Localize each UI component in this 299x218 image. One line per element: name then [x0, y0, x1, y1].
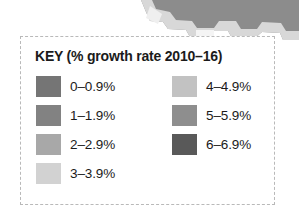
legend-item-label: 5–5.9%: [206, 108, 251, 123]
legend-swatch: [172, 76, 197, 97]
map-legend-figure: KEY (% growth rate 2010–16) 0–0.9% 1–1.9…: [0, 0, 299, 218]
legend-item[interactable]: 1–1.9%: [36, 104, 115, 126]
legend-item[interactable]: 0–0.9%: [36, 75, 115, 97]
coastline-shape: [141, 0, 299, 40]
legend-item-label: 1–1.9%: [70, 108, 115, 123]
legend-swatch: [36, 105, 61, 126]
legend-item[interactable]: 4–4.9%: [172, 75, 251, 97]
legend-box: KEY (% growth rate 2010–16) 0–0.9% 1–1.9…: [20, 36, 275, 205]
legend-swatch: [36, 134, 61, 155]
legend-item[interactable]: 5–5.9%: [172, 104, 251, 126]
legend-swatch: [172, 134, 197, 155]
inlet-shape: [146, 6, 162, 24]
legend-column-left: 0–0.9% 1–1.9% 2–2.9% 3–3.9%: [36, 75, 115, 191]
legend-item[interactable]: 3–3.9%: [36, 162, 115, 184]
legend-item-label: 4–4.9%: [206, 79, 251, 94]
legend-item-label: 6–6.9%: [206, 137, 251, 152]
landmass-shape: [141, 0, 299, 40]
legend-swatch: [36, 163, 61, 184]
legend-item-label: 0–0.9%: [70, 79, 115, 94]
legend-column-right: 4–4.9% 5–5.9% 6–6.9%: [172, 75, 251, 162]
legend-item-label: 3–3.9%: [70, 166, 115, 181]
legend-item[interactable]: 2–2.9%: [36, 133, 115, 155]
legend-swatch: [36, 76, 61, 97]
legend-item-label: 2–2.9%: [70, 137, 115, 152]
legend-item[interactable]: 6–6.9%: [172, 133, 251, 155]
legend-title: KEY (% growth rate 2010–16): [35, 48, 222, 64]
legend-swatch: [172, 105, 197, 126]
